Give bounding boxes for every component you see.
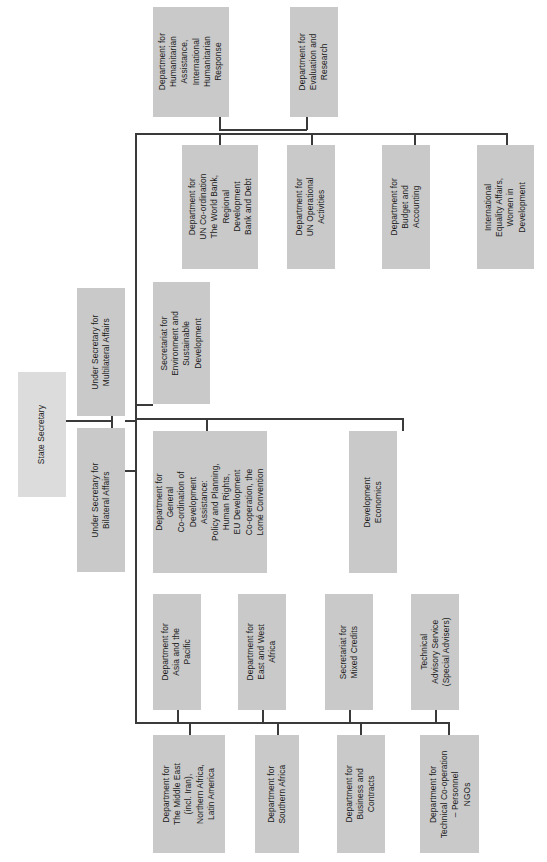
connector-rail-to-technical-cooperation bbox=[448, 722, 450, 735]
connector-rail-extend-right bbox=[436, 722, 450, 724]
node-under-secretary-multilateral-label: Under Secretary for Multilateral Affairs bbox=[90, 315, 112, 390]
node-dept-southern-africa[interactable]: Department for Southern Africa bbox=[255, 735, 299, 853]
node-dept-un-coordination-label: Department for UN Co-ordination The Worl… bbox=[186, 174, 253, 240]
node-dept-general-coordination[interactable]: Department for General Co-ordination of … bbox=[153, 431, 267, 573]
node-secretariat-environment[interactable]: Secretariat for Environment and Sustaina… bbox=[153, 282, 210, 404]
connector-row2-rail bbox=[135, 133, 507, 135]
node-dept-east-west-africa-label: Department for East and West Africa bbox=[245, 623, 279, 680]
node-secretariat-mixed-credits-label: Secretariat for Mixed Credits bbox=[338, 625, 360, 679]
node-development-economics[interactable]: Development Economics bbox=[349, 431, 397, 573]
connector-bilateral-rail-upper bbox=[135, 418, 403, 420]
connector-root-stem bbox=[66, 420, 112, 422]
node-dept-technical-cooperation-label: Department for Technical Co-operation – … bbox=[427, 750, 472, 838]
node-under-secretary-bilateral[interactable]: Under Secretary for Bilateral Affairs bbox=[77, 428, 125, 572]
connector-to-secretariat-environment bbox=[135, 404, 153, 406]
connector-rail-to-general-coordination bbox=[206, 418, 208, 431]
connector-row1-rail bbox=[219, 129, 307, 131]
connector-rail-to-humanitarian bbox=[219, 117, 221, 130]
node-dept-un-coordination[interactable]: Department for UN Co-ordination The Worl… bbox=[182, 145, 258, 269]
connector-bilateral-rail-lower bbox=[135, 722, 436, 724]
connector-rail-to-un-operational bbox=[311, 133, 313, 145]
connector-rail-to-equality bbox=[506, 133, 508, 145]
node-dept-humanitarian[interactable]: Department for Humanitarian Assistance, … bbox=[153, 7, 229, 117]
node-state-secretary[interactable]: State Secretary bbox=[18, 372, 66, 497]
node-international-equality-label: International Equality Affairs, Women in… bbox=[483, 177, 528, 236]
node-secretariat-mixed-credits[interactable]: Secretariat for Mixed Credits bbox=[325, 594, 373, 710]
connector-rail-to-budget bbox=[414, 133, 416, 145]
node-dept-east-west-africa[interactable]: Department for East and West Africa bbox=[238, 594, 286, 710]
node-secretariat-environment-label: Secretariat for Environment and Sustaina… bbox=[159, 311, 204, 376]
node-under-secretary-multilateral[interactable]: Under Secretary for Multilateral Affairs bbox=[77, 288, 125, 416]
connector-rail-to-mixed-credits bbox=[349, 710, 351, 723]
node-international-equality[interactable]: International Equality Affairs, Women in… bbox=[477, 145, 534, 269]
node-dept-un-operational-label: Department for UN Operational Activities bbox=[294, 177, 328, 236]
connector-bilateral-spine bbox=[135, 418, 137, 723]
connector-rail-to-southern-africa bbox=[277, 722, 279, 735]
node-dept-technical-cooperation[interactable]: Department for Technical Co-operation – … bbox=[420, 735, 479, 853]
connector-rail-to-un-coordination bbox=[219, 133, 221, 145]
node-dept-general-coordination-label: Department for General Co-ordination of … bbox=[154, 463, 266, 541]
node-dept-humanitarian-label: Department for Humanitarian Assistance, … bbox=[157, 33, 224, 90]
connector-rail-to-asia-pacific bbox=[177, 710, 179, 723]
node-dept-southern-africa-label: Department for Southern Africa bbox=[266, 765, 288, 824]
node-technical-advisory-service[interactable]: Technical Advisory Service (Special Advi… bbox=[411, 594, 459, 710]
connector-rail-to-evaluation bbox=[306, 117, 308, 130]
node-dept-business-contracts[interactable]: Department for Business and Contracts bbox=[337, 735, 385, 853]
node-dept-middle-east[interactable]: Department for The Middle East (incl. Ir… bbox=[153, 735, 225, 853]
node-dept-budget-label: Department for Budget and Accounting bbox=[389, 178, 423, 235]
node-development-economics-label: Development Economics bbox=[362, 477, 384, 527]
node-dept-middle-east-label: Department for The Middle East (incl. Ir… bbox=[161, 763, 217, 825]
node-dept-un-operational[interactable]: Department for UN Operational Activities bbox=[287, 145, 335, 269]
node-dept-budget[interactable]: Department for Budget and Accounting bbox=[382, 145, 430, 269]
org-chart-canvas: State Secretary Under Secretary for Mult… bbox=[0, 0, 547, 862]
connector-rail-to-development-economics bbox=[402, 418, 404, 431]
connector-rail-to-east-west-africa bbox=[262, 710, 264, 723]
node-state-secretary-label: State Secretary bbox=[36, 405, 47, 464]
node-dept-business-contracts-label: Department for Business and Contracts bbox=[344, 765, 378, 822]
connector-multilateral-spine bbox=[135, 133, 137, 421]
connector-rail-to-middle-east bbox=[189, 722, 191, 735]
connector-rail-to-business-contracts bbox=[360, 722, 362, 735]
node-under-secretary-bilateral-label: Under Secretary for Bilateral Affairs bbox=[90, 463, 112, 538]
node-dept-evaluation[interactable]: Department for Evaluation and Research bbox=[290, 7, 338, 117]
node-dept-asia-pacific-label: Department for Asia and the Pacific bbox=[160, 623, 194, 680]
node-dept-evaluation-label: Department for Evaluation and Research bbox=[297, 33, 331, 90]
node-technical-advisory-service-label: Technical Advisory Service (Special Advi… bbox=[418, 618, 452, 687]
node-dept-asia-pacific[interactable]: Department for Asia and the Pacific bbox=[153, 594, 201, 710]
